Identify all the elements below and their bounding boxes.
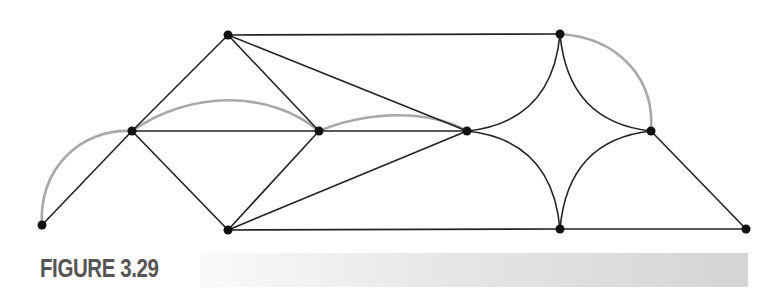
highlighted-edge-B-E — [132, 100, 319, 131]
vertex-F — [463, 127, 472, 136]
curved-edge-F-H — [467, 131, 560, 229]
edge-I-J — [651, 131, 746, 229]
vertex-G — [556, 30, 565, 39]
highlighted-edge-E-F — [319, 115, 467, 131]
edge-C-G — [228, 34, 560, 35]
edge-D-E — [228, 131, 319, 230]
edge-C-F — [228, 35, 467, 131]
curved-edge-F-G — [467, 34, 560, 131]
vertex-I — [647, 127, 656, 136]
vertex-H — [556, 225, 565, 234]
vertex-A — [38, 221, 47, 230]
vertex-E — [315, 127, 324, 136]
vertex-C — [224, 31, 233, 40]
vertex-D — [224, 226, 233, 235]
edge-A-B — [42, 131, 132, 225]
edge-C-E — [228, 35, 319, 131]
edge-D-F — [228, 131, 467, 230]
edge-B-D — [132, 131, 228, 230]
edge-B-C — [132, 35, 228, 131]
vertex-J — [742, 225, 751, 234]
vertex-B — [128, 127, 137, 136]
edge-D-H — [228, 229, 560, 230]
caption-bar — [200, 253, 748, 287]
curved-edge-H-I — [560, 131, 651, 229]
curved-edge-G-I — [560, 34, 651, 131]
curved-edges — [467, 34, 651, 229]
figure-caption: FIGURE 3.29 — [40, 253, 159, 283]
